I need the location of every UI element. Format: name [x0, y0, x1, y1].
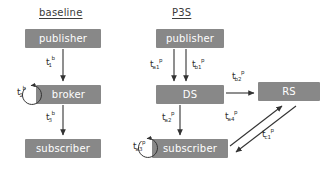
- edge-label-ta1p-sup: p: [159, 57, 163, 63]
- edge-label-tb2p-sup: p: [241, 69, 245, 75]
- edge-label-t3b-sup: b: [52, 110, 56, 116]
- edge-label-ta1p: ta1p: [150, 60, 164, 69]
- arrow-rs-to-subscriber-c1: [236, 106, 296, 152]
- edge-label-tc1p-sup: p: [271, 127, 275, 133]
- edge-label-tc1p: tc1p: [262, 130, 276, 139]
- edge-label-tb1p-sub: b1: [195, 64, 202, 70]
- edge-label-ta3p-sup: p: [142, 139, 146, 145]
- edge-label-t2b-sub: 2: [20, 92, 24, 98]
- edge-label-tc1p-sub: c1: [265, 134, 272, 140]
- node-publisher-p3s[interactable]: publisher: [156, 29, 224, 48]
- edge-label-ta1p-sub: a1: [153, 64, 160, 70]
- edge-label-ta4p-sup: p: [234, 109, 238, 115]
- edge-label-t1b: t1b: [46, 58, 57, 67]
- node-rs[interactable]: RS: [258, 82, 320, 101]
- panel-title-p3s: P3S: [172, 7, 191, 18]
- diagram-canvas: baseline P3S publisher broker subscriber…: [0, 0, 325, 172]
- edge-label-t2b: t2b: [17, 88, 28, 97]
- edge-label-t3b: t3b: [46, 113, 57, 122]
- edge-label-ta2p-sup: p: [171, 110, 175, 116]
- edge-label-ta3p-sub: a3: [136, 146, 143, 152]
- node-publisher-baseline[interactable]: publisher: [25, 29, 101, 48]
- node-subscriber-baseline[interactable]: subscriber: [25, 139, 101, 158]
- edge-label-t2b-sup: b: [23, 85, 27, 91]
- edge-label-tb1p-sup: p: [201, 57, 205, 63]
- edge-label-ta3p: ta3p: [133, 142, 147, 151]
- edge-label-ta4p-sub: a4: [228, 116, 235, 122]
- edge-label-ta4p: ta4p: [225, 112, 239, 121]
- edge-label-t1b-sub: 1: [49, 62, 53, 68]
- node-subscriber-p3s[interactable]: subscriber: [152, 139, 228, 158]
- node-broker-baseline[interactable]: broker: [36, 85, 101, 104]
- edge-label-ta2p-sub: a2: [165, 117, 172, 123]
- edge-label-ta2p: ta2p: [162, 113, 176, 122]
- edge-label-tb2p-sub: b2: [235, 76, 242, 82]
- edge-label-t1b-sup: b: [52, 55, 56, 61]
- node-ds[interactable]: DS: [156, 85, 224, 104]
- edge-label-t3b-sub: 3: [49, 117, 53, 123]
- panel-title-baseline: baseline: [39, 7, 83, 18]
- edge-label-tb1p: tb1p: [192, 60, 206, 69]
- edge-label-tb2p: tb2p: [232, 72, 246, 81]
